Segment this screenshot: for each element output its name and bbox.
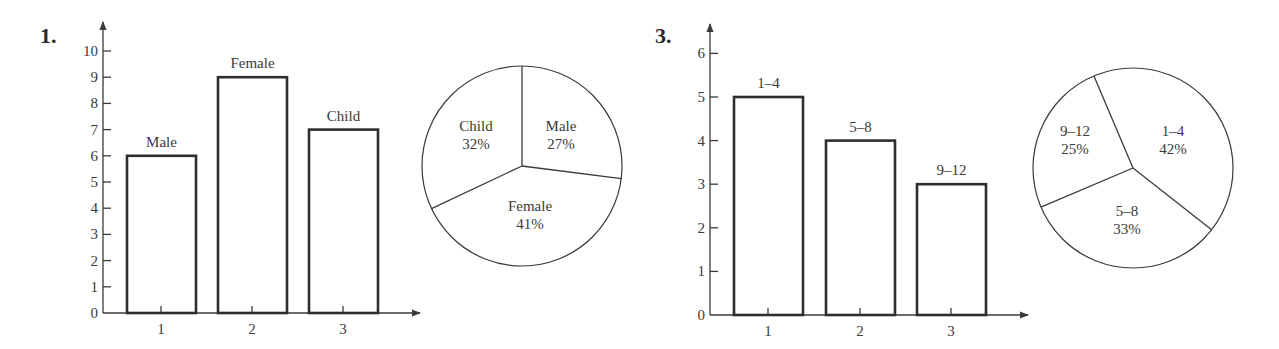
bar-label: Female xyxy=(230,55,274,71)
bar-label: 9–12 xyxy=(937,162,967,178)
pie-slice-percent: 25% xyxy=(1061,141,1089,157)
pie-slice-label: Female xyxy=(508,198,552,214)
y-tick-label: 1 xyxy=(91,279,99,295)
x-tick-label: 1 xyxy=(157,321,165,337)
y-tick-label: 8 xyxy=(91,95,99,111)
x-tick-label: 2 xyxy=(856,323,864,339)
y-tick-label: 1 xyxy=(698,263,706,279)
bar-3 xyxy=(917,184,986,315)
pie-slice-percent: 33% xyxy=(1113,221,1141,237)
pie-slice-label: Male xyxy=(546,118,577,134)
problem-number: 3. xyxy=(655,23,672,48)
problem-1-pie-chart: Male27%Female41%Child32% xyxy=(422,66,622,266)
bar-2 xyxy=(826,141,895,315)
y-tick-label: 10 xyxy=(83,43,98,59)
figure-canvas: 1.012345678910Male1Female2Child3 Male27%… xyxy=(0,0,1279,349)
pie-slice-percent: 27% xyxy=(547,136,575,152)
y-tick-label: 2 xyxy=(91,253,99,269)
pie-slice-label: Child xyxy=(459,118,493,134)
pie-slice-percent: 42% xyxy=(1159,141,1187,157)
pie-slice-percent: 41% xyxy=(516,216,544,232)
y-tick-label: 4 xyxy=(91,200,99,216)
x-tick-label: 2 xyxy=(248,321,256,337)
x-tick-label: 1 xyxy=(764,323,772,339)
y-tick-label: 9 xyxy=(91,69,99,85)
pie-slice-label: 1–4 xyxy=(1162,123,1185,139)
y-tick-label: 3 xyxy=(91,226,99,242)
y-tick-label: 0 xyxy=(698,307,706,323)
x-tick-label: 3 xyxy=(339,321,347,337)
bar-label: Child xyxy=(327,108,361,124)
pie-slice-label: 5–8 xyxy=(1116,203,1139,219)
bar-1 xyxy=(127,156,196,313)
bar-2 xyxy=(218,77,287,313)
y-tick-label: 5 xyxy=(698,89,706,105)
y-tick-label: 4 xyxy=(698,133,706,149)
y-tick-label: 0 xyxy=(91,305,99,321)
problem-3-bar-chart: 3.01234561–415–829–123 xyxy=(655,23,1028,339)
x-tick-label: 3 xyxy=(947,323,955,339)
y-tick-label: 3 xyxy=(698,176,706,192)
bar-label: Male xyxy=(146,134,177,150)
problem-1-bar-chart: 1.012345678910Male1Female2Child3 xyxy=(40,22,420,337)
pie-slice-percent: 32% xyxy=(462,136,490,152)
problem-number: 1. xyxy=(40,23,57,48)
pie-slice-label: 9–12 xyxy=(1060,123,1090,139)
bar-label: 5–8 xyxy=(849,119,872,135)
y-tick-label: 5 xyxy=(91,174,99,190)
bar-label: 1–4 xyxy=(757,75,780,91)
problem-3-pie-chart: 1–442%5–833%9–1225% xyxy=(1033,68,1233,268)
bar-3 xyxy=(309,130,378,313)
y-tick-label: 2 xyxy=(698,220,706,236)
y-tick-label: 6 xyxy=(698,45,706,61)
bar-1 xyxy=(734,97,803,315)
y-tick-label: 7 xyxy=(91,122,99,138)
y-tick-label: 6 xyxy=(91,148,99,164)
